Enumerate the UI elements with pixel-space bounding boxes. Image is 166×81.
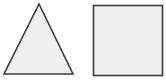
triangle-shape <box>4 4 73 74</box>
square-shape <box>94 6 163 76</box>
shapes-diagram <box>0 0 166 81</box>
